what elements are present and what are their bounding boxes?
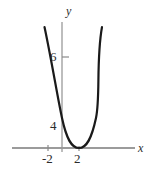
y-tick-label-6: 6: [50, 50, 57, 63]
y-tick-label-4: 4: [50, 119, 57, 132]
x-tick-label-2: 2: [74, 152, 81, 165]
x-axis-label: x: [138, 142, 143, 154]
y-axis-label: y: [66, 5, 71, 17]
x-tick-label-neg2: -2: [42, 152, 53, 165]
parabola-figure: 6 4 -2 2 y x: [0, 0, 151, 175]
plot-canvas: [0, 0, 151, 175]
